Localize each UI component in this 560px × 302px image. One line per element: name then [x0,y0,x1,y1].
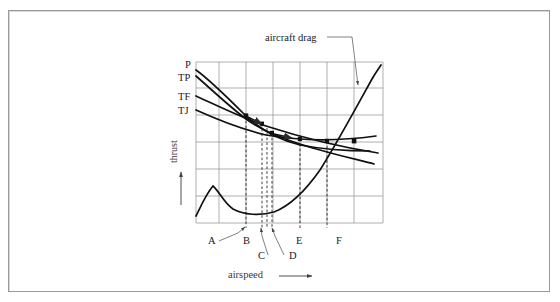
curve-TJ [196,110,376,140]
aircraft-drag-leader [327,37,358,85]
aircraft-drag-annotation: aircraft drag [265,33,317,44]
curve-label-TP: TP [178,73,190,84]
figure-root: aircraft drag P TP TF TJ A B C D E F thr… [0,0,560,302]
point-label-A: A [208,236,216,247]
curve-TF [196,96,378,153]
curve-label-P: P [185,60,191,71]
point-label-leaders [219,227,284,255]
y-axis-label: thrust [168,140,179,163]
point-label-F: F [336,236,342,247]
point-label-B: B [243,236,250,247]
curve-label-TF: TF [178,92,190,103]
point-label-E: E [296,236,302,247]
point-label-C: C [258,251,265,262]
point-label-D: D [289,251,297,262]
curve-label-TJ: TJ [178,106,189,117]
thrust-airspeed-chart [0,0,560,302]
x-axis-label: airspeed [228,270,263,281]
